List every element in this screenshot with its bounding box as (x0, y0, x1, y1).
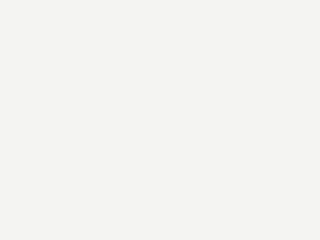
binary-search-tree (0, 0, 268, 148)
